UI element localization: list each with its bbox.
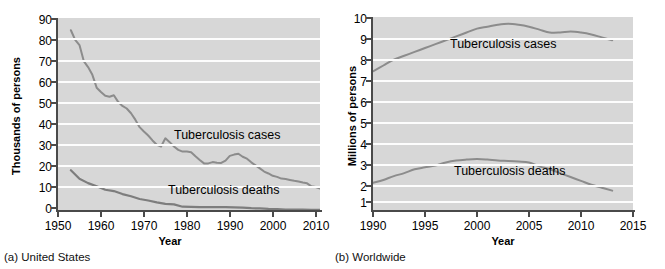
panel-a-xtickmark-1960 (100, 211, 102, 217)
panel-b-x-axis-title: Year (463, 235, 543, 247)
panel-a-xtickmark-2010 (315, 211, 317, 217)
panel-a-x-axis-line (56, 210, 322, 212)
panel-a-ytickmark-40 (51, 123, 56, 125)
panel-b-gridline-4 (373, 143, 633, 145)
panel-b-ytickmark-7 (366, 80, 371, 82)
panel-b-ytick-5: 5 (339, 117, 367, 131)
panel-a-gridline-50 (58, 102, 320, 104)
panel-b-gridline-8 (373, 59, 633, 61)
panel-b-gridline-7 (373, 80, 633, 82)
panel-a-ytick-40: 40 (20, 118, 52, 132)
panel-b-ytick-1: 1 (339, 196, 367, 210)
panel-b-xtickmark-2010 (580, 211, 582, 217)
panel-a-ytickmark-60 (51, 81, 56, 83)
panel-a-ytick-90: 90 (20, 13, 52, 27)
panel-a-ytickmark-70 (51, 60, 56, 62)
panel-b-ytickmark-6 (366, 101, 371, 103)
panel-a-xtick-1950: 1950 (34, 219, 82, 233)
panel-a-xtick-2000: 2000 (249, 219, 297, 233)
panel-b-ytick-4: 4 (339, 138, 367, 152)
panel-a-xtick-1990: 1990 (206, 219, 254, 233)
panel-b-ytickmark-9 (366, 38, 371, 40)
panel-a-ytick-0: 0 (20, 202, 52, 216)
panel-b-xtick-2000: 2000 (453, 219, 501, 233)
panel-a-gridline-60 (58, 81, 320, 83)
panel-b-ytickmark-5 (366, 122, 371, 124)
panel-a-ytickmark-0 (51, 207, 56, 209)
panel-b-ytickmark-1 (366, 201, 371, 203)
panel-b-label-deaths: Tuberculosis deaths (454, 164, 565, 178)
panel-b-caption: (b) Worldwide (335, 251, 406, 263)
panel-a-ytick-50: 50 (20, 97, 52, 111)
panel-b-gridline-1 (373, 201, 633, 203)
panel-b-xtick-2005: 2005 (505, 219, 553, 233)
panel-a-label-cases: Tuberculosis cases (174, 128, 281, 142)
panel-b-label-cases: Tuberculosis cases (450, 37, 557, 51)
panel-worldwide: Millions of persons 10 9 8 7 6 5 4 3 2 1 (333, 0, 665, 269)
panel-b-ytick-2: 2 (339, 180, 367, 194)
panel-a-ytickmark-20 (51, 165, 56, 167)
panel-b-xtick-2010: 2010 (557, 219, 605, 233)
panel-a-ytickmark-80 (51, 39, 56, 41)
panel-b-gridline-2 (373, 185, 633, 187)
panel-b-xtickmark-2005 (528, 211, 530, 217)
panel-a-gridline-70 (58, 60, 320, 62)
panel-b-x-axis-line (371, 210, 635, 212)
panel-a-xtickmark-2000 (272, 211, 274, 217)
panel-b-ytickmark-8 (366, 59, 371, 61)
panel-b-ytickmark-4 (366, 143, 371, 145)
panel-a-ytickmark-50 (51, 102, 56, 104)
panel-b-xtickmark-1995 (424, 211, 426, 217)
panel-a-gridline-40 (58, 123, 320, 125)
panel-b-ytick-9: 9 (339, 33, 367, 47)
panel-a-gridline-30 (58, 144, 320, 146)
panel-b-ytick-3: 3 (339, 159, 367, 173)
panel-b-ytick-6: 6 (339, 96, 367, 110)
panel-a-gridline-80 (58, 38, 320, 40)
panel-a-xtick-1970: 1970 (120, 219, 168, 233)
panel-b-xtick-2015: 2015 (609, 219, 657, 233)
panel-a-ytick-80: 80 (20, 34, 52, 48)
panel-a-label-deaths: Tuberculosis deaths (168, 183, 279, 197)
panel-a-caption: (a) United States (4, 251, 90, 263)
panel-b-ytickmark-10 (366, 17, 371, 19)
panel-b-xtickmark-2015 (632, 211, 634, 217)
panel-a-xtickmark-1970 (143, 211, 145, 217)
panel-united-states: Thousands of persons 90 80 70 60 50 40 3… (0, 0, 333, 269)
panel-b-xtick-1995: 1995 (401, 219, 449, 233)
panel-b-ytick-7: 7 (339, 75, 367, 89)
panel-a-ytick-10: 10 (20, 181, 52, 195)
panel-a-xtickmark-1950 (57, 211, 59, 217)
tuberculosis-figure: Thousands of persons 90 80 70 60 50 40 3… (0, 0, 665, 269)
panel-b-xtickmark-1990 (372, 211, 374, 217)
panel-b-ytickmark-2 (366, 185, 371, 187)
panel-b-ytick-8: 8 (339, 54, 367, 68)
panel-a-xtick-1960: 1960 (77, 219, 125, 233)
panel-a-ytick-30: 30 (20, 139, 52, 153)
panel-b-gridline-5 (373, 122, 633, 124)
panel-a-ytick-20: 20 (20, 160, 52, 174)
panel-a-gridline-20 (58, 165, 320, 167)
panel-a-ytick-60: 60 (20, 76, 52, 90)
panel-a-xtickmark-1990 (229, 211, 231, 217)
panel-b-xtickmark-2000 (476, 211, 478, 217)
panel-b-ytickmark-3 (366, 164, 371, 166)
panel-a-xtick-1980: 1980 (163, 219, 211, 233)
panel-a-ytick-70: 70 (20, 55, 52, 69)
panel-b-ytick-10: 10 (339, 12, 367, 26)
panel-a-xtickmark-1980 (186, 211, 188, 217)
panel-a-ytickmark-30 (51, 144, 56, 146)
panel-b-xtick-1990: 1990 (349, 219, 397, 233)
panel-a-x-axis-title: Year (130, 235, 210, 247)
panel-a-ytickmark-90 (51, 18, 56, 20)
panel-b-gridline-6 (373, 101, 633, 103)
panel-a-ytickmark-10 (51, 186, 56, 188)
